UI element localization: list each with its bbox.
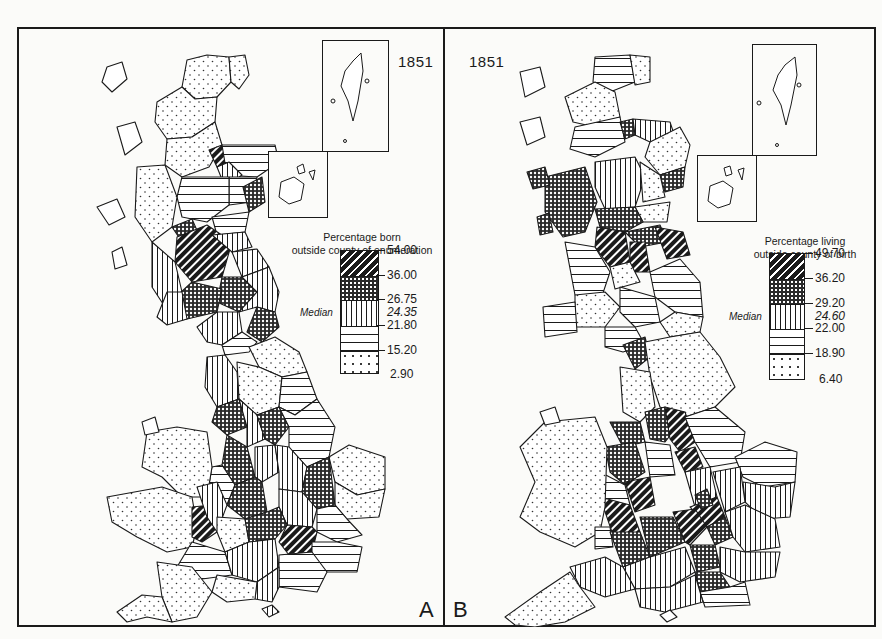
orkney-islands-icon <box>269 152 326 216</box>
legend-class-horizontal <box>770 329 804 354</box>
island-skye <box>117 122 142 155</box>
region-argyll <box>135 165 177 242</box>
legend-break: 36.00 <box>387 269 417 281</box>
panel-b: 1851 Percentage living outside county of… <box>445 27 876 627</box>
legend-class-dots <box>770 354 804 379</box>
island-anglesey <box>540 407 560 425</box>
legend-title-line1: Percentage born <box>267 231 457 244</box>
island-lewis <box>520 67 545 97</box>
legend-break: 54.00 <box>387 244 417 256</box>
legend-title-line2: outside county of birth <box>730 248 880 261</box>
orkney-islands-icon <box>698 156 755 220</box>
legend-break: 49.70 <box>815 247 845 259</box>
legend-break: 36.20 <box>815 272 845 284</box>
isle-of-wight <box>262 605 279 617</box>
legend-break: 21.80 <box>387 319 417 331</box>
orkney-inset <box>697 155 757 222</box>
island-anglesey <box>142 417 159 435</box>
region-dumfries <box>575 292 620 327</box>
legend-break: 22.00 <box>815 322 845 334</box>
year-label-b: 1851 <box>469 53 504 70</box>
legend-class-vertical <box>770 304 804 329</box>
island-skye <box>520 117 545 145</box>
region-leicester <box>645 442 675 477</box>
legend-break: 15.20 <box>387 344 417 356</box>
region-middlesex-london <box>279 525 317 555</box>
shetland-islands-icon <box>753 45 815 153</box>
legend-break: 2.90 <box>390 368 413 380</box>
panel-letter-b: B <box>453 597 468 623</box>
region-middlesex <box>690 545 720 572</box>
year-label-a: 1851 <box>398 53 433 70</box>
region-south-wales <box>107 487 197 552</box>
legend-break: 29.20 <box>815 297 845 309</box>
panel-letter-a: A <box>419 597 434 623</box>
shetland-islands-icon <box>323 41 387 149</box>
region-monmouth <box>595 527 613 549</box>
region-norfolk <box>735 442 797 487</box>
island-lewis <box>102 62 127 92</box>
region-northumberland <box>650 259 703 317</box>
legend-break: 26.75 <box>387 293 417 305</box>
region-north-highlands <box>182 55 231 99</box>
legend-bar-a <box>340 250 379 374</box>
orkney-inset <box>268 151 328 218</box>
island-mull <box>527 167 550 189</box>
shetland-inset <box>752 44 817 156</box>
region-wales <box>520 417 607 547</box>
legend-class-horizontal <box>341 326 378 351</box>
region-caithness <box>229 55 249 89</box>
region-lancashire <box>205 355 239 407</box>
legend-title-b: Percentage living outside county of birt… <box>730 235 880 261</box>
region-argyll <box>545 167 597 237</box>
median-label-a: Median <box>300 307 333 318</box>
region-rutland <box>675 447 703 472</box>
region-kent <box>720 547 780 582</box>
region-galloway <box>543 302 577 337</box>
legend-bar-b <box>769 253 805 380</box>
median-label-b: Median <box>729 311 762 322</box>
legend-class-diagonal <box>341 251 378 276</box>
legend-class-dots <box>341 351 378 373</box>
legend-class-vertical <box>341 300 378 326</box>
legend-class-crosshatch <box>341 276 378 300</box>
shetland-inset <box>322 40 389 152</box>
panel-a: 1851 Percentage born outside county of e… <box>17 27 444 627</box>
legend-class-crosshatch <box>770 279 804 304</box>
legend-break: 18.90 <box>815 347 845 359</box>
legend-title-line1: Percentage living <box>730 235 880 248</box>
island-islay <box>112 247 127 269</box>
legend-break: 6.40 <box>819 373 842 385</box>
legend-class-diagonal <box>770 254 804 279</box>
region-perth <box>595 157 645 209</box>
island-mull <box>97 199 125 225</box>
region-yorkshire <box>645 332 735 417</box>
legend-median-value: 24.35 <box>387 306 417 318</box>
